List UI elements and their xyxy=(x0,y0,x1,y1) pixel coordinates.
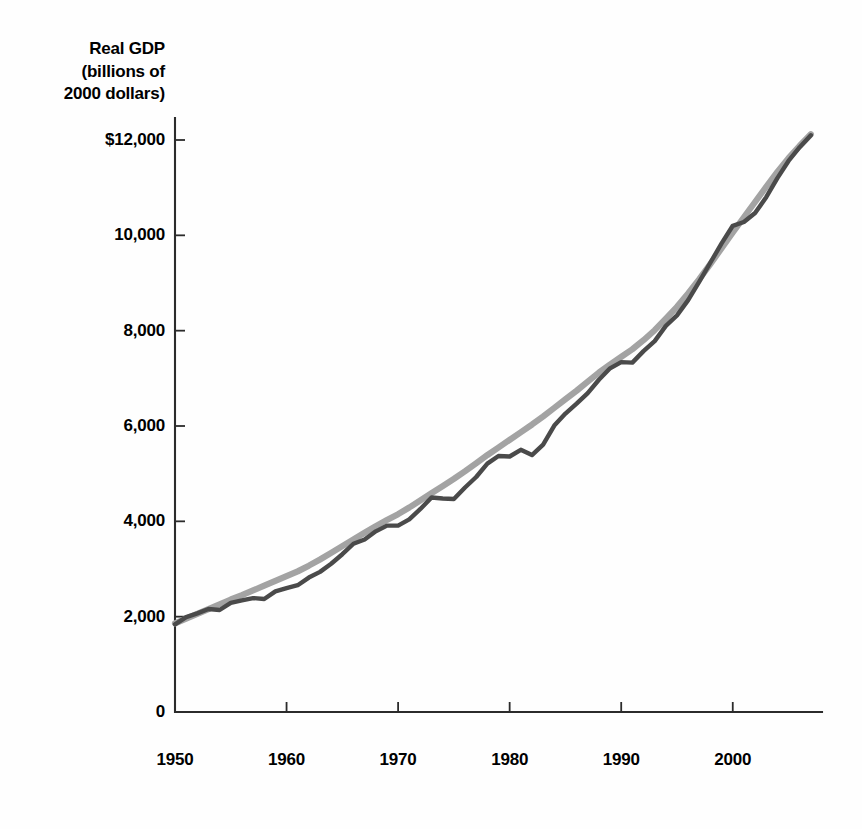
plot-area xyxy=(0,0,862,829)
axis-ticks xyxy=(175,140,733,712)
series-line-actual xyxy=(175,135,811,624)
series-line-trend xyxy=(175,134,811,623)
real-gdp-chart: Real GDP (billions of 2000 dollars) $12,… xyxy=(0,0,862,829)
axis-lines xyxy=(175,118,822,712)
